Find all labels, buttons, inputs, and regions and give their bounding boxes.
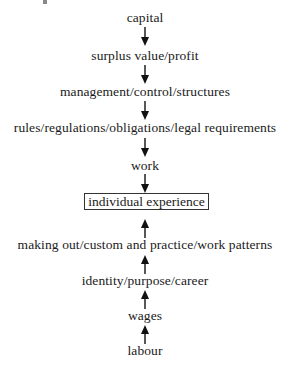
up-arrow-icon xyxy=(138,289,152,309)
down-arrow-icon xyxy=(138,27,152,47)
node-surplus-value-profit: surplus value/profit xyxy=(0,48,290,64)
down-arrow-icon xyxy=(138,101,152,121)
node-individual-experience: individual experience xyxy=(84,193,209,210)
down-arrow-icon xyxy=(138,138,152,158)
down-arrow-icon xyxy=(138,174,152,194)
up-arrow-icon xyxy=(138,254,152,274)
node-labour: labour xyxy=(0,343,290,359)
down-arrow-icon xyxy=(138,65,152,85)
node-identity-purpose-career: identity/purpose/career xyxy=(0,273,290,289)
node-wages: wages xyxy=(0,308,290,324)
node-management-control-structures: management/control/structures xyxy=(0,84,290,100)
up-arrow-icon xyxy=(138,324,152,344)
node-capital: capital xyxy=(0,10,290,26)
scan-mark xyxy=(43,0,47,4)
node-work: work xyxy=(0,158,290,174)
up-arrow-icon xyxy=(138,218,152,238)
node-making-out-work-patterns: making out/custom and practice/work patt… xyxy=(0,237,290,253)
node-rules-regulations: rules/regulations/obligations/legal requ… xyxy=(0,120,290,136)
